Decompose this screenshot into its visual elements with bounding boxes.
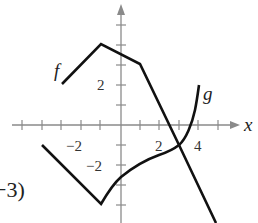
y-tick-label-2: 2: [97, 77, 105, 93]
y-tick-label-neg2: −2: [86, 158, 102, 174]
graph-canvas: −2 2 4 2 −2 x f g −3): [0, 0, 258, 223]
x-tick-label-2: 2: [155, 138, 163, 154]
x-tick-label-4: 4: [194, 138, 202, 154]
x-axis-label: x: [243, 114, 253, 135]
x-axis: [12, 120, 240, 130]
x-tick-label-neg2: −2: [66, 138, 82, 154]
y-axis-arrow-icon: [117, 4, 125, 15]
cropped-text-fragment: −3): [0, 177, 25, 202]
label-g: g: [203, 83, 213, 104]
y-axis: [116, 4, 126, 223]
curve-f: [62, 44, 216, 223]
x-axis-arrow-icon: [230, 121, 240, 129]
label-f: f: [54, 60, 62, 81]
